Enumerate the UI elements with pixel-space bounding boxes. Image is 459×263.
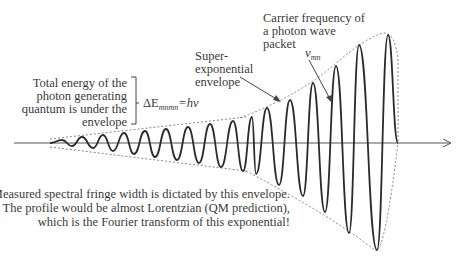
super-exponential-label: Super- exponential envelope	[195, 49, 254, 89]
arrowhead-icon	[326, 95, 332, 103]
svg-text:which is the Fourier transform: which is the Fourier transform of this e…	[38, 215, 290, 229]
nu-mn-symbol: νmn	[305, 45, 321, 62]
svg-text:envelope: envelope	[82, 115, 128, 129]
svg-text:a photon wave: a photon wave	[263, 24, 336, 38]
energy-formula: ΔEmnmn=hν	[143, 96, 199, 112]
svg-text:photon generating: photon generating	[36, 89, 127, 103]
svg-text:Total energy of the: Total energy of the	[33, 76, 128, 90]
svg-text:packet: packet	[263, 37, 296, 51]
svg-text:The profile would be almost Lo: The profile would be almost Lorentzian (…	[3, 201, 290, 215]
super-exponential-arrow	[240, 77, 281, 102]
svg-text:envelope: envelope	[195, 75, 241, 89]
bottom-note: Measured spectral fringe width is dictat…	[0, 187, 290, 229]
arrowhead-icon	[273, 95, 281, 102]
bracket-icon	[131, 77, 139, 124]
carrier-frequency-label: Carrier frequency of a photon wave packe…	[263, 11, 366, 51]
svg-text:Measured spectral fringe width: Measured spectral fringe width is dictat…	[0, 187, 290, 201]
svg-text:quantum is under the: quantum is under the	[22, 102, 128, 116]
svg-text:exponential: exponential	[195, 62, 254, 76]
svg-text:Super-: Super-	[195, 49, 228, 63]
wave-packet-diagram: Total energy of the photon generating qu…	[0, 0, 459, 263]
svg-text:Carrier frequency of: Carrier frequency of	[263, 11, 366, 25]
total-energy-label: Total energy of the photon generating qu…	[22, 76, 128, 129]
time-axis	[14, 139, 451, 147]
